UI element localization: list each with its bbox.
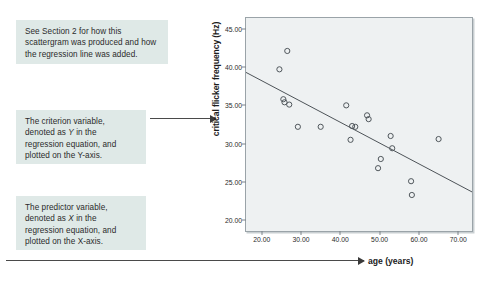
variable-y-italic: Y (68, 128, 74, 137)
callout-line: the regression line was added. (25, 49, 160, 60)
x-tick-mark (261, 231, 262, 235)
x-tick-mark (301, 231, 302, 235)
y-tick-label: 35.00 (225, 102, 242, 109)
callout-box-predictor-variable: The predictor variable, denoted as X in … (16, 196, 146, 250)
callout-line: regression equation, and (25, 139, 138, 150)
x-axis-title: age (years) (368, 256, 413, 266)
x-tick-label: 20.00 (253, 236, 270, 243)
callout-line: The criterion variable, (25, 116, 138, 127)
callout-line: plotted on the Y-axis. (25, 150, 138, 161)
x-tick-mark (340, 231, 341, 235)
variable-x-italic: X (68, 214, 74, 223)
scatterplot-chart: critical flicker frequency (Hz) age (yea… (196, 8, 481, 281)
plot-frame: 20.0025.0030.0035.0040.0045.0020.0030.00… (245, 17, 473, 232)
x-tick-label: 60.00 (410, 236, 427, 243)
callout-line: denoted as Y in the (25, 127, 138, 138)
data-point (353, 124, 358, 129)
x-tick-label: 50.00 (371, 236, 388, 243)
data-point (388, 133, 393, 138)
x-tick-label: 30.00 (293, 236, 310, 243)
plot-inner (246, 18, 472, 231)
data-point (436, 136, 441, 141)
y-tick-label: 30.00 (225, 140, 242, 147)
callout-line: regression equation, and (25, 225, 138, 236)
x-tick-mark (379, 231, 380, 235)
plot-svg (246, 18, 472, 231)
data-point (348, 137, 353, 142)
y-tick-mark (242, 67, 246, 68)
x-tick-label: 70.00 (450, 236, 467, 243)
y-tick-mark (242, 181, 246, 182)
data-point (285, 48, 290, 53)
y-tick-mark (242, 28, 246, 29)
data-point (409, 192, 414, 197)
callout-line: denoted as X in the (25, 213, 138, 224)
callout-line: The predictor variable, (25, 202, 138, 213)
data-point (281, 97, 286, 102)
data-point (318, 124, 323, 129)
y-tick-label: 45.00 (225, 25, 242, 32)
regression-line (246, 72, 472, 192)
figure-root: See Section 2 for how this scattergram w… (0, 0, 481, 281)
y-tick-label: 25.00 (225, 178, 242, 185)
callout-line: plotted on the X-axis. (25, 236, 138, 247)
y-tick-mark (242, 220, 246, 221)
x-tick-label: 40.00 (332, 236, 349, 243)
callout-box-section-note: See Section 2 for how this scattergram w… (16, 20, 168, 64)
y-tick-mark (242, 105, 246, 106)
data-point (287, 102, 292, 107)
x-tick-mark (418, 231, 419, 235)
x-tick-mark (458, 231, 459, 235)
callout-line: See Section 2 for how this (25, 26, 160, 37)
y-tick-label: 20.00 (225, 217, 242, 224)
callout-box-criterion-variable: The criterion variable, denoted as Y in … (16, 110, 146, 164)
y-tick-mark (242, 143, 246, 144)
callout-line: scattergram was produced and how (25, 37, 160, 48)
data-point (375, 166, 380, 171)
data-point (295, 124, 300, 129)
data-point (344, 103, 349, 108)
y-axis-title: critical flicker frequency (Hz) (211, 0, 221, 159)
data-point (378, 156, 383, 161)
y-tick-label: 40.00 (225, 64, 242, 71)
data-point (277, 67, 282, 72)
data-point (408, 179, 413, 184)
